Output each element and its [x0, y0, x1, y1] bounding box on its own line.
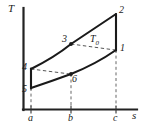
- temperature-axis-label: T: [8, 3, 14, 14]
- state-point-label-1: 1: [120, 43, 125, 53]
- state-point-label-4: 4: [22, 62, 27, 72]
- isotherm-line-4-6: [31, 69, 70, 74]
- state-point-label-3: 3: [62, 34, 67, 44]
- marker-point-3: [69, 42, 73, 46]
- isotherm-t0-label: T0: [90, 34, 99, 47]
- upper-process-curve: [31, 14, 116, 69]
- axes-group: [23, 8, 137, 110]
- state-point-markers: [69, 42, 73, 76]
- state-point-label-6: 6: [72, 74, 77, 84]
- tick-label-b: b: [68, 113, 73, 123]
- state-point-label-2: 2: [119, 5, 124, 15]
- isotherm-t0-subscript: 0: [96, 39, 100, 47]
- state-point-label-5: 5: [22, 84, 27, 94]
- entropy-axis-label: s: [132, 110, 136, 121]
- ts-diagram-figure: T s T0 2 1 3 4 5 6 a b c: [0, 0, 150, 133]
- tick-label-c: c: [113, 113, 117, 123]
- tick-label-a: a: [28, 113, 33, 123]
